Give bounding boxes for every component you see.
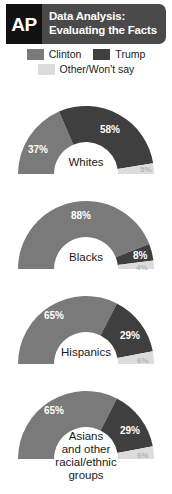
legend-swatch-trump-icon xyxy=(93,49,110,60)
header-banner: AP Data Analysis: Evaluating the Facts xyxy=(6,4,166,44)
chart-value-hispanics-other: 6% xyxy=(137,356,149,365)
page-title-line-1: Data Analysis: xyxy=(49,10,166,24)
legend-swatch-other-icon xyxy=(38,64,55,75)
chart-value-whites-clinton: 37% xyxy=(28,144,48,155)
legend-item-clinton: Clinton xyxy=(27,48,82,60)
chart-center-label-line: groups xyxy=(0,469,172,482)
legend-item-other: Other/Won't say xyxy=(38,63,135,75)
chart-group-whites: Whites 37% 58% 5% xyxy=(0,92,172,187)
chart-value-asians-other: 6% xyxy=(137,451,149,460)
legend-row-primary: Clinton Trump xyxy=(0,48,172,60)
chart-value-asians-trump: 29% xyxy=(120,425,140,436)
legend: Clinton Trump Other/Won't say xyxy=(0,48,172,78)
chart-group-blacks: Blacks 88% 8% 4% xyxy=(0,187,172,282)
legend-item-trump: Trump xyxy=(93,48,145,60)
page-title-line-2: Evaluating the Facts xyxy=(49,24,166,38)
legend-label-other: Other/Won't say xyxy=(60,63,135,75)
legend-swatch-clinton-icon xyxy=(27,49,44,60)
legend-row-secondary: Other/Won't say xyxy=(0,63,172,75)
chart-center-label-line: Asians xyxy=(0,430,172,443)
chart-value-blacks-other: 4% xyxy=(136,263,148,272)
chart-value-blacks-clinton: 88% xyxy=(71,210,91,221)
page-title: Data Analysis: Evaluating the Facts xyxy=(42,4,166,44)
legend-label-trump: Trump xyxy=(115,48,145,60)
legend-label-clinton: Clinton xyxy=(49,48,82,60)
ap-logo: AP xyxy=(6,4,42,44)
chart-list: Whites 37% 58% 5% Blacks 88% 8% 4% Hispa… xyxy=(0,92,172,491)
chart-group-hispanics: Hispanics 65% 29% 6% xyxy=(0,282,172,377)
chart-value-hispanics-trump: 29% xyxy=(120,330,140,341)
chart-value-whites-other: 5% xyxy=(140,165,152,174)
chart-value-hispanics-clinton: 65% xyxy=(44,310,64,321)
chart-value-blacks-trump: 8% xyxy=(133,250,147,261)
infographic-root: AP Data Analysis: Evaluating the Facts C… xyxy=(0,0,172,494)
chart-group-asians: Asians and other racial/ethnic groups 65… xyxy=(0,377,172,491)
chart-value-asians-clinton: 65% xyxy=(44,405,64,416)
chart-value-whites-trump: 58% xyxy=(100,124,120,135)
ap-logo-text: AP xyxy=(11,15,36,34)
